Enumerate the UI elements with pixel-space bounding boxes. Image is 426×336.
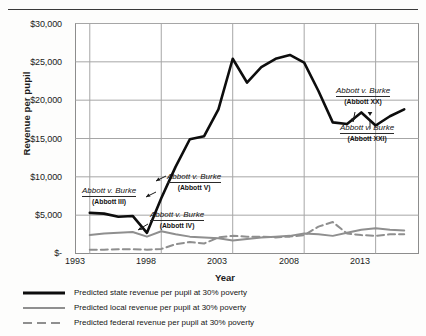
annotation-subtitle: (Abbott XX) xyxy=(336,97,390,107)
annotation-title: Abbott v. Burke xyxy=(82,186,136,197)
legend-label-federal: Predicted federal revenue per pupil at 3… xyxy=(74,318,254,327)
annotation-subtitle: (Abbott XXI) xyxy=(340,134,394,144)
annotation-subtitle: (Abbott IV) xyxy=(150,221,204,231)
annotation-abbott-v: Abbott v. Burke (Abbott V) xyxy=(167,172,221,193)
x-tick-1993: 1993 xyxy=(52,256,98,266)
legend-item-state: Predicted state revenue per pupil at 30%… xyxy=(22,285,254,300)
annotation-title: Abbott v. Burke xyxy=(150,210,204,221)
annotation-subtitle: (Abbott V) xyxy=(167,183,221,193)
annotation-abbott-xxi: Abbott v. Burke (Abbott XXI) xyxy=(340,123,394,144)
chart-legend: Predicted state revenue per pupil at 30%… xyxy=(22,285,254,330)
legend-swatch-federal xyxy=(22,317,66,329)
x-tick-2008: 2008 xyxy=(266,256,312,266)
annotation-abbott-xx: Abbott v. Burke (Abbott XX) xyxy=(336,86,390,107)
annotation-title: Abbott v. Burke xyxy=(340,123,394,134)
x-tick-2013: 2013 xyxy=(337,256,383,266)
legend-item-local: Predicted local revenue per pupil at 30%… xyxy=(22,300,254,315)
legend-swatch-state xyxy=(22,287,66,299)
annotation-subtitle: (Abbott III) xyxy=(82,197,136,207)
x-tick-1998: 1998 xyxy=(123,256,169,266)
x-tick-2003: 2003 xyxy=(194,256,240,266)
annotation-title: Abbott v. Burke xyxy=(167,172,221,183)
legend-label-state: Predicted state revenue per pupil at 30%… xyxy=(74,288,247,297)
legend-label-local: Predicted local revenue per pupil at 30%… xyxy=(74,303,246,312)
legend-swatch-local xyxy=(22,302,66,314)
x-axis-label: Year xyxy=(165,272,285,283)
annotation-title: Abbott v. Burke xyxy=(336,86,390,97)
chart-figure: Revenue per pupil $30,000 $25,000 $20,00… xyxy=(0,0,426,336)
annotation-abbott-iv: Abbott v. Burke (Abbott IV) xyxy=(150,210,204,231)
annotation-abbott-iii: Abbott v. Burke (Abbott III) xyxy=(82,186,136,207)
legend-item-federal: Predicted federal revenue per pupil at 3… xyxy=(22,315,254,330)
